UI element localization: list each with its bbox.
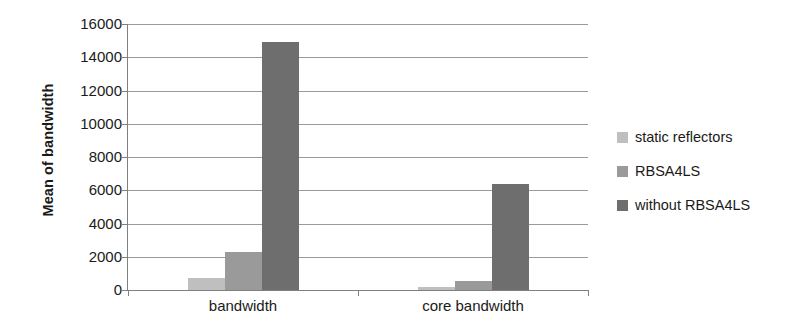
y-axis-tick-mark xyxy=(122,224,128,225)
y-axis-tick-mark xyxy=(122,124,128,125)
y-axis-tick-label: 14000 xyxy=(46,49,122,64)
gridline xyxy=(128,91,588,92)
y-axis-tick-mark xyxy=(122,157,128,158)
y-axis-tick-mark xyxy=(122,257,128,258)
y-axis-tick-label: 0 xyxy=(46,282,122,297)
gridline xyxy=(128,157,588,158)
y-axis-tick-label: 16000 xyxy=(46,16,122,31)
legend: static reflectorsRBSA4LSwithout RBSA4LS xyxy=(617,120,787,222)
y-axis-tick-label: 4000 xyxy=(46,216,122,231)
legend-swatch-icon xyxy=(617,200,628,211)
y-axis-tick-label: 10000 xyxy=(46,116,122,131)
y-axis-tick-label: 6000 xyxy=(46,182,122,197)
y-axis-tick-label: 2000 xyxy=(46,249,122,264)
legend-label: RBSA4LS xyxy=(635,163,700,179)
legend-label: without RBSA4LS xyxy=(635,197,750,213)
legend-item: RBSA4LS xyxy=(617,154,787,188)
gridline xyxy=(128,24,588,25)
bar xyxy=(455,281,492,290)
y-axis-tick-label: 8000 xyxy=(46,149,122,164)
x-axis-category-labels: bandwidthcore bandwidth xyxy=(128,296,588,326)
y-axis-tick-labels: 1600014000120001000080006000400020000 xyxy=(46,0,122,332)
legend-swatch-icon xyxy=(617,166,628,177)
gridline xyxy=(128,57,588,58)
bar xyxy=(262,42,299,290)
bar xyxy=(418,287,455,290)
y-axis-tick-label: 12000 xyxy=(46,83,122,98)
y-axis-tick-mark xyxy=(122,190,128,191)
y-axis-tick-mark xyxy=(122,57,128,58)
bar xyxy=(225,252,262,290)
legend-item: static reflectors xyxy=(617,120,787,154)
plot-area xyxy=(128,24,588,290)
bar-chart: Mean of bandwidth 1600014000120001000080… xyxy=(0,0,792,332)
bar xyxy=(188,278,225,290)
legend-swatch-icon xyxy=(617,132,628,143)
x-axis-tick-mark xyxy=(588,290,589,296)
x-axis-category-label: bandwidth xyxy=(128,296,358,316)
bar xyxy=(492,184,529,290)
gridline xyxy=(128,124,588,125)
legend-label: static reflectors xyxy=(635,129,733,145)
y-axis-tick-mark xyxy=(122,24,128,25)
x-axis-category-label: core bandwidth xyxy=(358,296,588,316)
y-axis-tick-mark xyxy=(122,91,128,92)
legend-item: without RBSA4LS xyxy=(617,188,787,222)
